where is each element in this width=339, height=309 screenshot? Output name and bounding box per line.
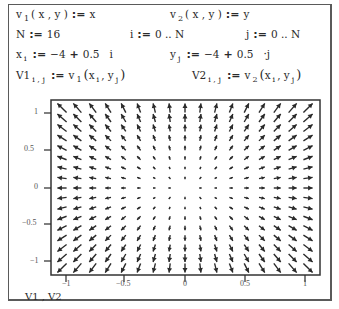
var-name: V1 — [16, 69, 30, 81]
fn-name: v — [245, 69, 251, 81]
value: 0 .. N — [155, 28, 184, 40]
x-tick-label: −0.5 — [116, 279, 131, 288]
fn-name: v — [16, 8, 22, 20]
subscript: 2 — [253, 75, 258, 84]
arg: y — [108, 69, 114, 81]
arg: x — [265, 69, 271, 81]
def-v2[interactable]: v2( x , y ):=y — [170, 8, 249, 22]
index-var: i — [110, 48, 113, 60]
def-V1[interactable]: V1i , j:=v1(xi, yj) — [16, 69, 125, 83]
var-name: V2 — [192, 69, 206, 81]
def-N[interactable]: N:=16 — [16, 28, 60, 41]
y-tick-label: 0 — [34, 182, 38, 191]
subscript: i , j — [208, 75, 221, 84]
value: −4 — [50, 48, 65, 60]
subscript: 1 — [77, 75, 82, 84]
assign-op: := — [29, 28, 43, 41]
value: 16 — [47, 28, 60, 40]
plus-op: + — [224, 48, 233, 61]
fn-name: v — [69, 69, 75, 81]
x-tick-label: −1 — [62, 279, 71, 288]
subscript: j — [292, 75, 294, 84]
assign-op: := — [137, 28, 151, 41]
assign-op: := — [51, 69, 65, 82]
value: 0.5 — [237, 48, 254, 60]
y-tick-label: −0.5 — [22, 218, 37, 227]
assign-op: := — [253, 28, 267, 41]
subscript: i , j — [32, 75, 45, 84]
subscript: 1 — [24, 14, 29, 23]
assign-op: := — [186, 48, 200, 61]
subscript: i — [97, 75, 100, 84]
x-tick-label: 0.5 — [240, 279, 250, 288]
index-var: ·j — [263, 48, 270, 60]
arg: y — [284, 69, 290, 81]
paren: ) — [296, 67, 301, 82]
subscript: j — [178, 54, 180, 63]
assign-op: := — [32, 48, 46, 61]
paren: ) — [120, 67, 125, 82]
def-v1[interactable]: v1( x , y ):=x — [16, 8, 95, 22]
var-name: N — [16, 28, 25, 40]
args: ( x , y ) — [31, 8, 68, 20]
sep: , — [277, 69, 280, 81]
value: −4 — [204, 48, 219, 60]
var-name: x — [16, 48, 22, 60]
args: ( x , y ) — [185, 8, 222, 20]
y-tick-label: −1 — [30, 256, 39, 265]
plot-caption[interactable]: V1 , V2 — [25, 291, 62, 302]
subscript: 2 — [178, 14, 183, 23]
plus-op: + — [70, 48, 79, 61]
def-i[interactable]: i:=0 .. N — [130, 28, 184, 41]
var-name: y — [170, 48, 176, 60]
y-tick-label: 1 — [34, 107, 38, 116]
y-tick-label: 0.5 — [24, 144, 34, 153]
arg: x — [89, 69, 95, 81]
assign-op: := — [72, 8, 86, 21]
sep: , — [101, 69, 104, 81]
x-tick-label: 0 — [183, 279, 187, 288]
subscript: i — [24, 54, 27, 63]
var-name: j — [246, 28, 249, 40]
assign-op: := — [227, 69, 241, 82]
subscript: j — [116, 75, 118, 84]
fn-name: v — [170, 8, 176, 20]
subscript: i — [273, 75, 276, 84]
def-j[interactable]: j:=0 .. N — [246, 28, 300, 41]
def-V2[interactable]: V2i , j:=v2(xi, yj) — [192, 69, 301, 83]
value: x — [89, 8, 95, 20]
var-name: i — [130, 28, 133, 40]
value: 0.5 — [83, 48, 100, 60]
def-y[interactable]: yj:=−4+0.5 ·j — [170, 48, 270, 62]
x-tick-label: 1 — [303, 279, 307, 288]
assign-op: := — [226, 8, 240, 21]
def-x[interactable]: xi:=−4+0.5 i — [16, 48, 113, 62]
value: y — [243, 8, 249, 20]
value: 0 .. N — [271, 28, 300, 40]
